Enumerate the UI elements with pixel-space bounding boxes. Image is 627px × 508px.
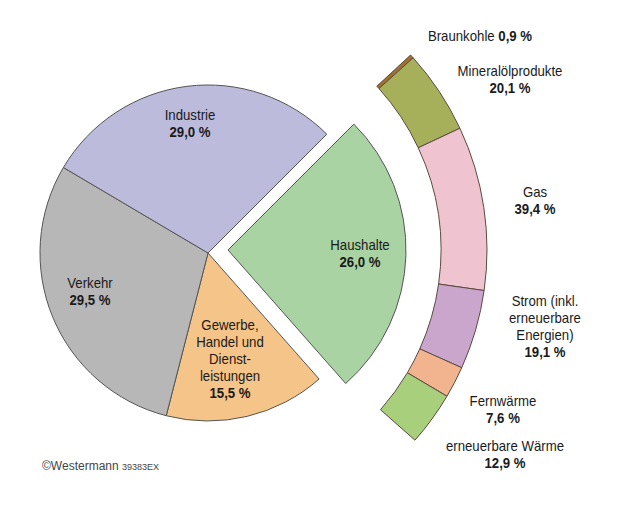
label-gas: Gas 39,4 % — [504, 183, 566, 217]
label-verkehr: Verkehr 29,5 % — [55, 274, 125, 308]
copyright-notice: ©Westermann 39383EX — [42, 459, 159, 473]
label-strom: Strom (inkl. erneuerbare Energien) 19,1 … — [497, 292, 594, 360]
label-mineraloelprodukte: Mineralölprodukte 20,1 % — [448, 62, 571, 96]
label-industrie: Industrie 29,0 % — [150, 106, 229, 140]
label-erneuerbare-waerme: erneuerbare Wärme 12,9 % — [439, 437, 571, 471]
label-braunkohle: Braunkohle 0,9 % — [410, 27, 551, 44]
label-gewerbe: Gewerbe, Handel und Dienst- leistungen 1… — [190, 316, 269, 401]
label-fernwaerme: Fernwärme 7,6 % — [463, 392, 542, 426]
label-haushalte: Haushalte 26,0 % — [320, 236, 399, 270]
ring-segment-gas — [418, 128, 487, 290]
